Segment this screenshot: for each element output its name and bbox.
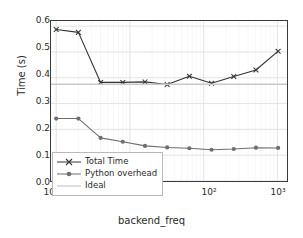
legend-label: Total Time xyxy=(82,156,128,167)
legend-item-ideal[interactable]: Ideal xyxy=(56,180,157,192)
y-tick-label: 0.5 xyxy=(36,43,50,52)
legend-marker-circle-icon xyxy=(56,168,82,180)
y-tick-label: 0.6 xyxy=(36,16,50,25)
legend-item-python-overhead[interactable]: Python overhead xyxy=(56,168,157,180)
x-tick-text: 10³ xyxy=(270,187,285,197)
x-tick-label: 10³ xyxy=(263,188,293,197)
legend-marker-line-icon xyxy=(56,180,82,192)
legend-label: Ideal xyxy=(82,180,106,191)
figure: 0.6 0.5 0.4 0.3 0.2 0.1 0.0 Time (s) 10⁰… xyxy=(0,0,303,238)
y-tick-label: 0.1 xyxy=(36,151,50,160)
y-tick-label: 0.2 xyxy=(36,124,50,133)
x-axis-label: backend_freq xyxy=(0,215,303,226)
y-tick-label: 0.0 xyxy=(36,178,50,187)
y-axis-label: Time (s) xyxy=(16,6,27,146)
y-tick-label: 0.3 xyxy=(36,97,50,106)
y-tick-label: 0.4 xyxy=(36,70,50,79)
legend[interactable]: Total Time Python overhead Ideal xyxy=(52,152,163,196)
x-tick-label: 10² xyxy=(194,188,224,197)
legend-item-total-time[interactable]: Total Time xyxy=(56,156,157,168)
legend-label: Python overhead xyxy=(82,168,157,179)
legend-marker-x-icon xyxy=(56,156,82,168)
x-tick-text: 10² xyxy=(201,187,216,197)
